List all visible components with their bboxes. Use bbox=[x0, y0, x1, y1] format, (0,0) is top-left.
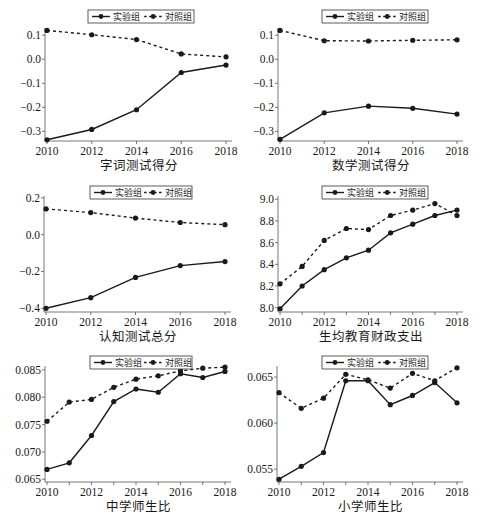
data-point bbox=[277, 306, 282, 311]
data-point bbox=[322, 238, 327, 243]
y-tick-label: −0.3 bbox=[253, 125, 274, 137]
legend: 实验组对照组 bbox=[90, 356, 192, 369]
data-point bbox=[432, 378, 437, 383]
x-tick-label: 2016 bbox=[401, 486, 424, 498]
data-point bbox=[410, 393, 415, 398]
treatment-series-line bbox=[280, 106, 457, 139]
legend: 实验组对照组 bbox=[322, 356, 428, 369]
y-tick-label: −0.2 bbox=[20, 101, 41, 113]
data-point bbox=[89, 433, 94, 438]
x-tick-label: 2018 bbox=[446, 316, 469, 328]
legend-label-control: 对照组 bbox=[399, 357, 426, 368]
data-point bbox=[89, 32, 94, 37]
legend-label-treatment: 实验组 bbox=[347, 357, 374, 368]
legend: 实验组对照组 bbox=[322, 186, 428, 199]
data-point bbox=[454, 111, 459, 116]
x-axis-title: 字词测试得分 bbox=[100, 158, 178, 173]
data-point bbox=[322, 110, 327, 115]
data-point bbox=[454, 213, 459, 218]
data-point bbox=[276, 477, 281, 482]
data-point bbox=[366, 248, 371, 253]
data-point bbox=[277, 28, 282, 33]
data-point bbox=[44, 28, 49, 33]
chart-panel-5: 0.0650.0600.05520102012201420162018小学师生比… bbox=[247, 356, 469, 514]
data-point bbox=[276, 390, 281, 395]
data-point bbox=[454, 400, 459, 405]
legend-marker-icon bbox=[99, 14, 104, 19]
x-tick-label: 2016 bbox=[169, 486, 192, 498]
data-point bbox=[222, 259, 227, 264]
x-tick-label: 2014 bbox=[357, 486, 380, 498]
legend-marker-icon bbox=[151, 360, 156, 365]
y-tick-label: −0.2 bbox=[253, 101, 274, 113]
data-point bbox=[366, 227, 371, 232]
x-tick-label: 2010 bbox=[269, 316, 292, 328]
legend-label-treatment: 实验组 bbox=[347, 187, 374, 198]
data-point bbox=[388, 402, 393, 407]
data-point bbox=[200, 366, 205, 371]
y-tick-label: 0.2 bbox=[26, 192, 41, 204]
x-tick-label: 2012 bbox=[313, 316, 336, 328]
y-tick-label: 8.0 bbox=[260, 302, 275, 314]
data-point bbox=[388, 385, 393, 390]
control-series-line bbox=[47, 30, 226, 57]
data-point bbox=[44, 137, 49, 142]
y-tick-label: 0.0 bbox=[260, 53, 275, 65]
y-tick-label: −0.2 bbox=[19, 265, 40, 277]
control-series-line bbox=[47, 367, 225, 421]
treatment-series-line bbox=[47, 65, 226, 140]
data-point bbox=[134, 37, 139, 42]
legend-label-treatment: 实验组 bbox=[347, 11, 374, 22]
x-tick-label: 2014 bbox=[124, 316, 147, 328]
data-point bbox=[300, 264, 305, 269]
data-point bbox=[179, 70, 184, 75]
x-tick-label: 2014 bbox=[357, 316, 380, 328]
x-tick-label: 2010 bbox=[36, 145, 59, 157]
data-point bbox=[223, 54, 228, 59]
x-axis-title: 中学师生比 bbox=[106, 499, 171, 514]
x-tick-label: 2018 bbox=[214, 486, 237, 498]
data-point bbox=[277, 137, 282, 142]
data-point bbox=[366, 104, 371, 109]
data-point bbox=[300, 283, 305, 288]
data-point bbox=[111, 385, 116, 390]
y-tick-label: 8.8 bbox=[260, 215, 275, 227]
legend-label-treatment: 实验组 bbox=[115, 187, 142, 198]
data-point bbox=[43, 306, 48, 311]
legend-marker-icon bbox=[333, 190, 338, 195]
data-point bbox=[343, 378, 348, 383]
chart-figure: 0.10.0−0.1−0.2−0.320102012201420162018字词… bbox=[0, 0, 480, 527]
data-point bbox=[432, 201, 437, 206]
data-point bbox=[88, 210, 93, 215]
legend-label-control: 对照组 bbox=[165, 357, 192, 368]
legend-label-control: 对照组 bbox=[165, 187, 192, 198]
y-tick-label: −0.3 bbox=[20, 125, 41, 137]
legend-label-control: 对照组 bbox=[399, 11, 426, 22]
y-tick-label: −0.1 bbox=[20, 77, 41, 89]
data-point bbox=[343, 372, 348, 377]
data-point bbox=[133, 215, 138, 220]
x-tick-label: 2012 bbox=[79, 316, 102, 328]
data-point bbox=[89, 127, 94, 132]
legend-marker-icon bbox=[385, 360, 390, 365]
y-tick-label: 0.060 bbox=[247, 417, 273, 429]
treatment-series-line bbox=[280, 210, 457, 309]
data-point bbox=[344, 226, 349, 231]
y-tick-label: 0.065 bbox=[15, 473, 41, 485]
data-point bbox=[410, 106, 415, 111]
y-tick-label: 9.0 bbox=[260, 193, 275, 205]
legend-marker-icon bbox=[151, 14, 156, 19]
x-tick-label: 2014 bbox=[357, 145, 380, 157]
y-tick-label: 0.075 bbox=[15, 419, 41, 431]
x-tick-label: 2016 bbox=[401, 145, 424, 157]
x-tick-label: 2010 bbox=[269, 145, 292, 157]
y-tick-label: 8.2 bbox=[260, 280, 275, 292]
data-point bbox=[88, 295, 93, 300]
y-tick-label: 0.065 bbox=[247, 371, 273, 383]
data-point bbox=[432, 213, 437, 218]
data-point bbox=[454, 207, 459, 212]
control-series-line bbox=[279, 368, 457, 409]
data-point bbox=[44, 419, 49, 424]
x-tick-label: 2018 bbox=[446, 145, 469, 157]
treatment-series-line bbox=[46, 262, 225, 309]
